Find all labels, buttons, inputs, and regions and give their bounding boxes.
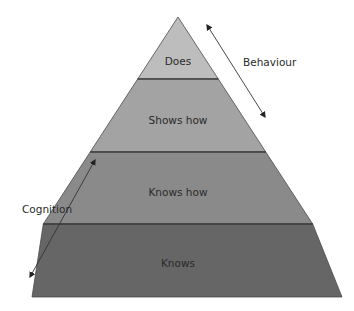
level-label-knows: Knows (161, 257, 195, 269)
behaviour-label: Behaviour (243, 56, 297, 68)
pyramid-level-does (138, 17, 219, 79)
level-label-knows-how: Knows how (148, 186, 207, 198)
cognition-label: Cognition (22, 203, 72, 215)
pyramid-diagram: Does Shows how Knows how Knows Behaviour… (0, 0, 354, 311)
level-label-does: Does (165, 55, 191, 67)
level-label-shows-how: Shows how (149, 114, 208, 126)
